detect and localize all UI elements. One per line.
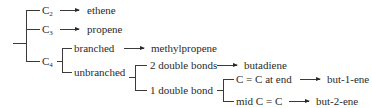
branched-connector [62,48,72,49]
two-double-bonds-arrow-icon [217,65,237,66]
one-double-bond-spine [223,79,224,102]
c3-connector [26,29,40,30]
unbranched-connector [62,72,72,73]
mid-cc-arrow-icon [289,101,309,102]
cc-at-end-label: C = C at end [236,73,292,85]
c4-connector [26,61,40,62]
c4-spine [62,48,63,73]
cc-at-end-connector [223,79,234,80]
c2-connector [26,10,40,11]
but-2-ene-label: but-2-ene [316,95,358,107]
unbranched-label: unbranched [74,66,125,78]
but-1-ene-label: but-1-ene [327,73,369,85]
two-double-bonds-label: 2 double bonds [150,59,217,71]
c3-arrow-icon [60,29,79,30]
c4-label: C4 [42,55,53,67]
branched-arrow-icon [124,48,144,49]
c4-subscript: 4 [49,61,53,69]
two-double-bonds-connector [135,65,147,66]
root-stub [13,43,27,44]
c2-arrow-icon [60,10,79,11]
unbranched-spine [135,65,136,91]
mid-cc-label: mid C = C [236,95,282,107]
c2-subscript: 2 [49,10,53,18]
c3-subscript: 3 [49,29,53,37]
one-double-bond-connector [135,90,147,91]
root-spine [26,10,27,62]
ethene-label: ethene [87,4,116,16]
methylpropene-label: methylpropene [151,42,217,54]
c2-label: C2 [42,4,53,16]
c3-label: C3 [42,23,53,35]
branched-label: branched [74,42,114,54]
cc-at-end-arrow-icon [300,79,320,80]
mid-cc-connector [223,101,234,102]
butadiene-label: butadiene [244,59,287,71]
one-double-bond-label: 1 double bond [150,84,213,96]
propene-label: propene [87,23,122,35]
